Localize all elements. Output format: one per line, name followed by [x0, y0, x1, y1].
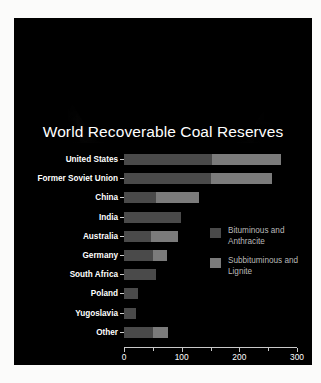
bar-segment — [124, 231, 151, 242]
bar-row: India — [14, 211, 312, 224]
bar-row: Yugoslavia — [14, 307, 312, 320]
bar-segment — [124, 269, 156, 280]
category-label: South Africa — [14, 268, 118, 281]
bar-segment — [124, 192, 156, 203]
bar-segment — [156, 192, 199, 203]
figure: World Recoverable Coal Reserves United S… — [0, 0, 321, 383]
stacked-bar — [124, 308, 136, 319]
bar-row: Poland — [14, 287, 312, 300]
chart-legend: Bituminous and AnthraciteSubbituminous a… — [210, 227, 310, 287]
category-label: Other — [14, 326, 118, 339]
plot-area: United StatesFormer Soviet UnionChinaInd… — [14, 151, 312, 365]
legend-label: Bituminous and Anthracite — [228, 225, 312, 247]
bar-row: China — [14, 191, 312, 204]
x-tick-label: 0 — [109, 352, 139, 362]
bar-segment — [124, 327, 153, 338]
stacked-bar — [124, 250, 167, 261]
stacked-bar — [124, 269, 156, 280]
category-label: Germany — [14, 249, 118, 262]
bar-row: Former Soviet Union — [14, 172, 312, 185]
stacked-bar — [124, 327, 168, 338]
stacked-bar — [124, 192, 199, 203]
category-label: Yugoslavia — [14, 307, 118, 320]
stacked-bar — [124, 212, 181, 223]
legend-item: Bituminous and Anthracite — [210, 227, 310, 251]
stacked-bar — [124, 231, 178, 242]
bar-row: United States — [14, 153, 312, 166]
x-tick-label: 200 — [224, 352, 254, 362]
bar-segment — [153, 250, 167, 261]
bar-segment — [124, 308, 136, 319]
bar-row: Other — [14, 326, 312, 339]
bar-segment — [211, 173, 273, 184]
bar-segment — [124, 154, 212, 165]
x-minor-tick — [268, 348, 269, 351]
legend-swatch — [210, 228, 221, 238]
category-label: Australia — [14, 230, 118, 243]
chart-title: World Recoverable Coal Reserves — [14, 123, 312, 141]
category-label: India — [14, 211, 118, 224]
bar-segment — [124, 173, 211, 184]
category-label: United States — [14, 153, 118, 166]
legend-label: Subbituminous and Lignite — [228, 255, 312, 277]
x-tick-label: 100 — [167, 352, 197, 362]
bar-segment — [124, 250, 153, 261]
stacked-bar — [124, 154, 281, 165]
chart-panel: World Recoverable Coal Reserves United S… — [14, 18, 312, 365]
bar-segment — [124, 288, 138, 299]
x-minor-tick — [153, 348, 154, 351]
category-label: Poland — [14, 287, 118, 300]
bar-segment — [124, 212, 181, 223]
legend-item: Subbituminous and Lignite — [210, 257, 310, 281]
stacked-bar — [124, 173, 272, 184]
x-tick-label: 300 — [282, 352, 312, 362]
bar-segment — [212, 154, 281, 165]
category-label: China — [14, 191, 118, 204]
bar-segment — [153, 327, 169, 338]
x-minor-tick — [211, 348, 212, 351]
category-label: Former Soviet Union — [14, 172, 118, 185]
bar-segment — [151, 231, 179, 242]
legend-swatch — [210, 258, 221, 268]
stacked-bar — [124, 288, 138, 299]
